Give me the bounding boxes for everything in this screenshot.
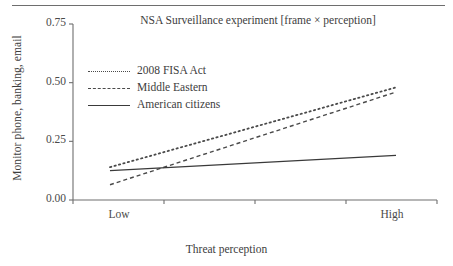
plot-area — [0, 0, 453, 266]
y-axis-ticks — [69, 24, 73, 200]
x-axis-ticks — [73, 200, 437, 204]
data-series-group — [110, 87, 396, 184]
chart-figure: NSA Surveillance experiment [frame × per… — [0, 0, 453, 266]
series-line — [110, 155, 396, 170]
axis-lines — [73, 24, 437, 200]
series-line — [110, 87, 396, 167]
series-line — [110, 92, 396, 185]
